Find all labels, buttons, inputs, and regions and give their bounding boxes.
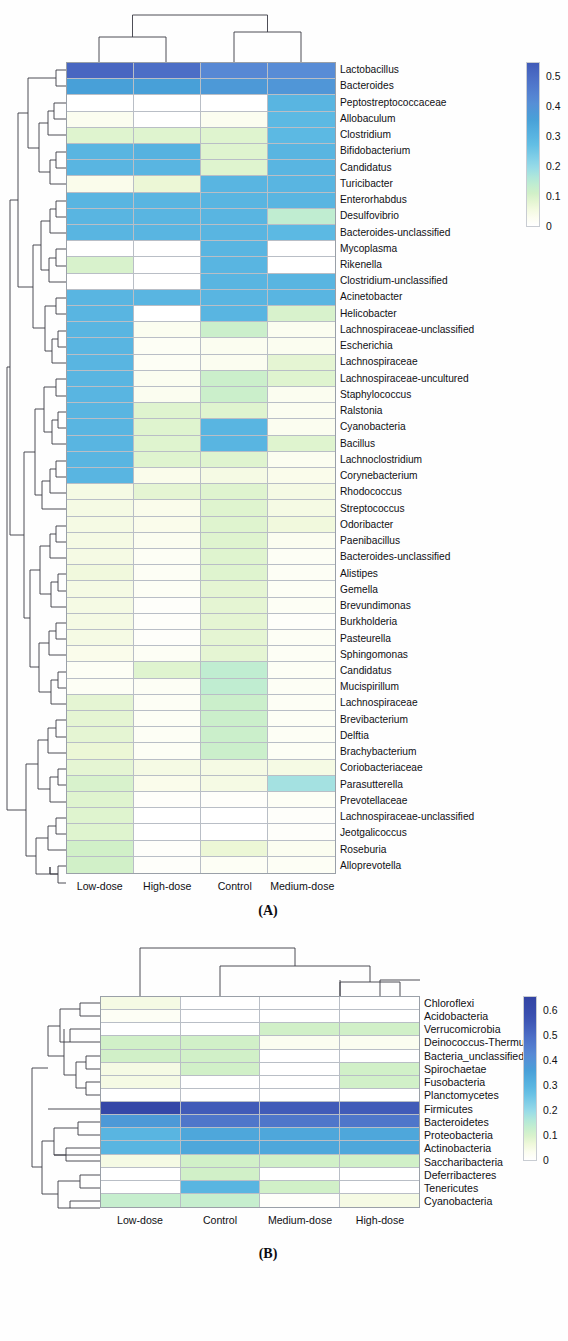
row-label: Rhodococcus	[340, 487, 402, 497]
panel-a-column-labels: Low-doseHigh-doseControlMedium-dose	[66, 880, 336, 896]
heatmap-cell	[260, 1194, 340, 1207]
heatmap-cell	[268, 824, 335, 840]
colorbar-tick-label: 0.2	[546, 161, 560, 172]
heatmap-cell	[268, 403, 335, 419]
heatmap-cell	[201, 257, 268, 273]
heatmap-cell	[134, 257, 201, 273]
row-label: Candidatus	[340, 666, 392, 676]
heatmap-cell	[201, 79, 268, 95]
heatmap-cell	[181, 1128, 261, 1141]
heatmap-cell	[181, 1102, 261, 1115]
heatmap-cell	[268, 484, 335, 500]
heatmap-cell	[268, 857, 335, 873]
heatmap-cell	[268, 727, 335, 743]
column-label: Medium-dose	[245, 880, 360, 892]
heatmap-cell	[67, 565, 134, 581]
row-label: Acidobacteria	[424, 1011, 488, 1022]
heatmap-cell	[134, 95, 201, 111]
heatmap-cell	[134, 581, 201, 597]
heatmap-cell	[101, 1155, 181, 1168]
heatmap-cell	[201, 193, 268, 209]
colorbar-tick-label: 0.5	[546, 71, 560, 82]
heatmap-cell	[134, 662, 201, 678]
row-label: Peptostreptococcaceae	[340, 98, 446, 108]
heatmap-cell	[340, 1115, 420, 1128]
heatmap-cell	[134, 695, 201, 711]
heatmap-cell	[340, 1036, 420, 1049]
row-label: Actinobacteria	[424, 1143, 491, 1154]
heatmap-cell	[134, 857, 201, 873]
row-label: Alloprevotella	[340, 861, 401, 871]
heatmap-cell	[67, 209, 134, 225]
heatmap-cell	[134, 241, 201, 257]
row-label: Prevotellaceae	[340, 796, 407, 806]
row-label: Brevibacterium	[340, 715, 408, 725]
heatmap-cell	[268, 209, 335, 225]
heatmap-cell	[67, 436, 134, 452]
heatmap-cell	[134, 436, 201, 452]
heatmap-cell	[134, 160, 201, 176]
colorbar-tick-label: 0.3	[543, 1080, 557, 1091]
heatmap-cell	[134, 517, 201, 533]
heatmap-cell	[181, 1076, 261, 1089]
panel-b-colorbar: 0.60.50.40.30.20.10	[523, 996, 568, 1161]
row-label: Bacillus	[340, 439, 375, 449]
heatmap-cell	[67, 160, 134, 176]
heatmap-cell	[340, 1128, 420, 1141]
row-label: Lachnospiraceae-uncultured	[340, 374, 469, 384]
panel-b: ChloroflexiAcidobacteriaVerrucomicrobiaD…	[0, 930, 568, 1341]
heatmap-cell	[67, 225, 134, 241]
heatmap-cell	[67, 290, 134, 306]
heatmap-cell	[268, 160, 335, 176]
heatmap-cell	[268, 225, 335, 241]
heatmap-cell	[201, 338, 268, 354]
heatmap-cell	[340, 1102, 420, 1115]
row-label: Verrucomicrobia	[424, 1024, 501, 1035]
panel-b-row-dendrogram	[18, 996, 100, 1208]
heatmap-cell	[201, 160, 268, 176]
heatmap-cell	[67, 468, 134, 484]
row-label: Bacteria_unclassified	[424, 1051, 524, 1062]
row-label: Jeotgalicoccus	[340, 828, 407, 838]
heatmap-cell	[201, 176, 268, 192]
heatmap-cell	[260, 1102, 340, 1115]
heatmap-cell	[340, 1141, 420, 1154]
heatmap-cell	[268, 679, 335, 695]
panel-a-row-labels: LactobacillusBacteroidesPeptostreptococc…	[340, 62, 540, 874]
row-label: Lachnospiraceae-unclassified	[340, 325, 474, 335]
heatmap-cell	[268, 387, 335, 403]
heatmap-cell	[268, 468, 335, 484]
heatmap-cell	[201, 355, 268, 371]
row-label: Deinococcus-Thermus	[424, 1037, 530, 1048]
row-label: Fusobacteria	[424, 1077, 485, 1088]
heatmap-cell	[67, 517, 134, 533]
heatmap-cell	[268, 776, 335, 792]
heatmap-cell	[101, 1115, 181, 1128]
heatmap-cell	[201, 290, 268, 306]
heatmap-cell	[134, 322, 201, 338]
row-label: Bacteroides-unclassified	[340, 552, 450, 562]
panel-a-colorbar: 0.50.40.30.20.10	[526, 62, 568, 227]
heatmap-cell	[134, 760, 201, 776]
row-label: Coriobacteriaceae	[340, 763, 423, 773]
heatmap-cell	[181, 1050, 261, 1063]
heatmap-cell	[134, 371, 201, 387]
heatmap-cell	[201, 614, 268, 630]
row-label: Rikenella	[340, 260, 382, 270]
heatmap-cell	[201, 598, 268, 614]
heatmap-cell	[340, 1010, 420, 1023]
heatmap-cell	[201, 824, 268, 840]
heatmap-cell	[268, 241, 335, 257]
heatmap-cell	[268, 63, 335, 79]
heatmap-cell	[134, 679, 201, 695]
heatmap-cell	[340, 1063, 420, 1076]
panel-a-caption: (A)	[238, 903, 298, 919]
heatmap-cell	[268, 338, 335, 354]
heatmap-cell	[268, 533, 335, 549]
row-label: Mucispirillum	[340, 682, 399, 692]
heatmap-cell	[201, 857, 268, 873]
heatmap-cell	[101, 1194, 181, 1207]
colorbar-tick-label: 0	[543, 1155, 549, 1166]
heatmap-cell	[340, 1168, 420, 1181]
heatmap-cell	[134, 841, 201, 857]
